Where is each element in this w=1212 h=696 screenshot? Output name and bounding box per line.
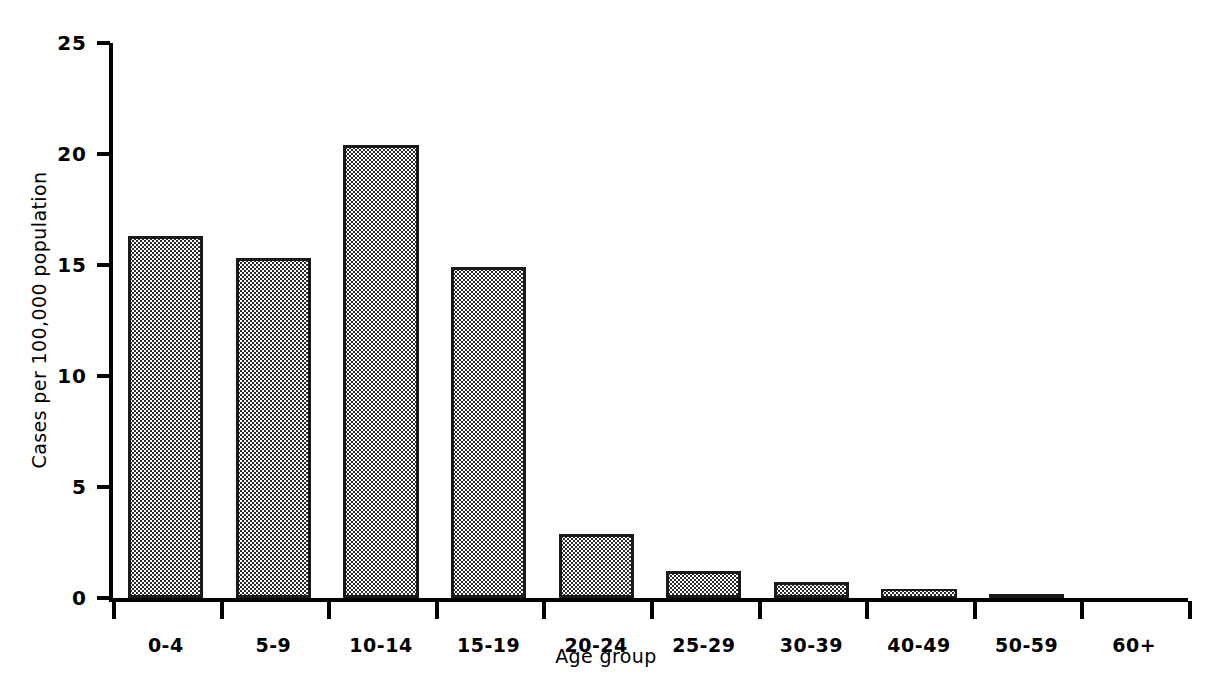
bar (881, 589, 956, 598)
x-axis-tick-mark (758, 601, 762, 619)
y-axis-tick-label: 25 (17, 30, 87, 56)
y-axis-tick-mark (97, 152, 110, 156)
bar (559, 534, 634, 598)
x-axis-tick-mark (220, 601, 224, 619)
bar (666, 571, 741, 598)
y-axis-tick-label: 10 (17, 363, 87, 389)
y-axis-tick-mark (97, 263, 110, 267)
x-axis-spine (109, 598, 1188, 602)
y-axis-tick-mark (97, 41, 110, 45)
y-axis-title: Cases per 100,000 population (22, 40, 56, 600)
x-axis-title: Age group (0, 645, 1212, 667)
y-axis-tick-mark (97, 485, 110, 489)
plot-area: 0510152025 0-45-910-1415-1920-2425-2930-… (112, 43, 1188, 598)
bar (774, 582, 849, 598)
x-axis-tick-mark (435, 601, 439, 619)
y-axis-tick-mark (97, 374, 110, 378)
bar (128, 236, 203, 598)
y-axis-spine (109, 43, 113, 601)
x-axis-tick-mark (1188, 601, 1192, 619)
y-axis-tick-label: 0 (17, 585, 87, 611)
bar-chart-figure: Cases per 100,000 population 0510152025 … (0, 0, 1212, 696)
bar (451, 267, 526, 598)
bar (343, 145, 418, 598)
bar (236, 258, 311, 598)
x-axis-tick-mark (327, 601, 331, 619)
x-axis-tick-mark (865, 601, 869, 619)
y-axis-tick-label: 5 (17, 474, 87, 500)
x-axis-tick-mark (1080, 601, 1084, 619)
x-axis-tick-mark (112, 601, 116, 619)
y-axis-tick-label: 20 (17, 141, 87, 167)
x-axis-tick-mark (542, 601, 546, 619)
x-axis-tick-mark (650, 601, 654, 619)
bar (989, 594, 1064, 598)
y-axis-tick-label: 15 (17, 252, 87, 278)
y-axis-tick-mark (97, 596, 110, 600)
x-axis-tick-mark (973, 601, 977, 619)
